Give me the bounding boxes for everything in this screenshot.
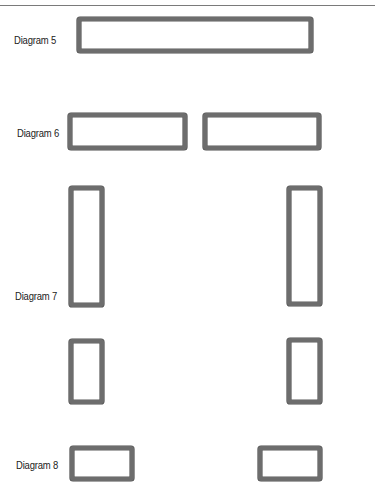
diagram-7-tall-right-frame — [287, 186, 322, 306]
diagram-8-label: Diagram 8 — [16, 459, 58, 472]
diagram-5-label: Diagram 5 — [14, 34, 56, 47]
diagram-7-tall-left-frame — [69, 186, 104, 307]
diagram-6-label: Diagram 6 — [17, 127, 59, 140]
diagram-7-short-right-frame — [287, 338, 322, 404]
diagram-7-short-left-frame — [69, 339, 104, 404]
diagram-7-label: Diagram 7 — [15, 290, 57, 303]
diagram-6-left-frame — [68, 113, 187, 150]
top-rule-divider — [0, 5, 375, 6]
diagram-8-right-frame — [258, 446, 322, 481]
diagram-6-right-frame — [203, 113, 321, 150]
diagram-8-left-frame — [70, 446, 134, 481]
diagram-5-wide-frame — [77, 17, 313, 53]
